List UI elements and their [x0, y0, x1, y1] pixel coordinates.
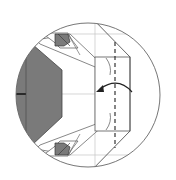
diagram-content	[10, 10, 130, 178]
origami-diagram	[0, 0, 176, 180]
right-flap	[95, 57, 130, 131]
